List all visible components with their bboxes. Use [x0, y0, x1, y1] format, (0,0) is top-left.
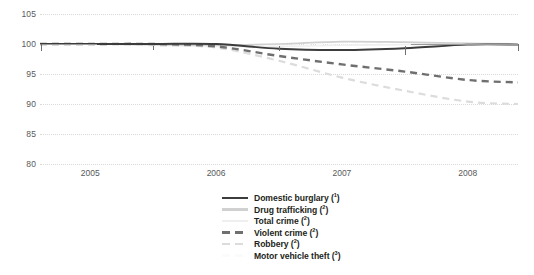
plot-area	[40, 14, 518, 164]
legend-label: Domestic burglary (1)	[254, 192, 340, 203]
axis-tick	[153, 46, 154, 50]
axis-tick	[41, 44, 42, 51]
legend-item[interactable]: Robbery (2)	[222, 238, 422, 250]
axis-tick	[518, 44, 519, 51]
y-axis-tick-label: 90	[2, 99, 36, 109]
legend-item[interactable]: Violent crime (2)	[222, 227, 422, 239]
legend-footnote-marker: 1	[334, 192, 337, 198]
legend-swatch-drug-trafficking-icon	[222, 204, 248, 215]
legend-label: Motor vehicle theft (3)	[254, 250, 340, 261]
x-axis-tick-label: 2005	[60, 168, 120, 178]
legend-footnote-marker: 2	[304, 215, 307, 221]
legend-swatch-domestic-burglary-icon	[222, 192, 248, 203]
legend-label: Total crime (2)	[254, 215, 310, 226]
x-axis-tick-labels: 2005200620072008	[40, 164, 518, 182]
legend-swatch-violent-crime-icon	[222, 227, 248, 238]
legend-footnote-marker: 2	[322, 204, 325, 210]
y-axis-tick-label: 105	[2, 9, 36, 19]
axis-baseline	[411, 44, 518, 45]
legend-swatch-motor-vehicle-theft-icon	[222, 250, 248, 261]
series-lines	[40, 14, 518, 164]
legend-item[interactable]: Domestic burglary (1)	[222, 192, 422, 204]
legend-label: Drug trafficking (2)	[254, 204, 328, 215]
chart-legend: Domestic burglary (1)Drug trafficking (2…	[222, 192, 422, 261]
legend-footnote-marker: 2	[312, 227, 315, 233]
x-axis-tick-label: 2008	[438, 168, 498, 178]
legend-label: Violent crime (2)	[254, 227, 318, 238]
legend-item[interactable]: Motor vehicle theft (3)	[222, 250, 422, 262]
axis-baseline	[40, 44, 97, 45]
series-line-robbery	[40, 44, 518, 104]
axis-tick	[279, 46, 280, 51]
y-axis-tick-label: 95	[2, 69, 36, 79]
legend-footnote-marker: 3	[335, 250, 338, 256]
y-axis-tick-label: 100	[2, 39, 36, 49]
legend-item[interactable]: Drug trafficking (2)	[222, 204, 422, 216]
y-axis-tick-labels: 80859095100105	[0, 14, 36, 164]
legend-swatch-robbery-icon	[222, 238, 248, 249]
axis-tick	[405, 46, 406, 55]
x-axis-tick-label: 2007	[312, 168, 372, 178]
legend-item[interactable]: Total crime (2)	[222, 215, 422, 227]
y-axis-tick-label: 80	[2, 159, 36, 169]
x-axis-tick-label: 2006	[186, 168, 246, 178]
cropped-title-remnant	[42, 0, 212, 6]
y-axis-tick-label: 85	[2, 129, 36, 139]
legend-swatch-total-crime-icon	[222, 215, 248, 226]
legend-label: Robbery (2)	[254, 238, 300, 249]
chart-figure: 80859095100105 2005200620072008 Domestic…	[0, 0, 534, 275]
legend-footnote-marker: 2	[294, 238, 297, 244]
